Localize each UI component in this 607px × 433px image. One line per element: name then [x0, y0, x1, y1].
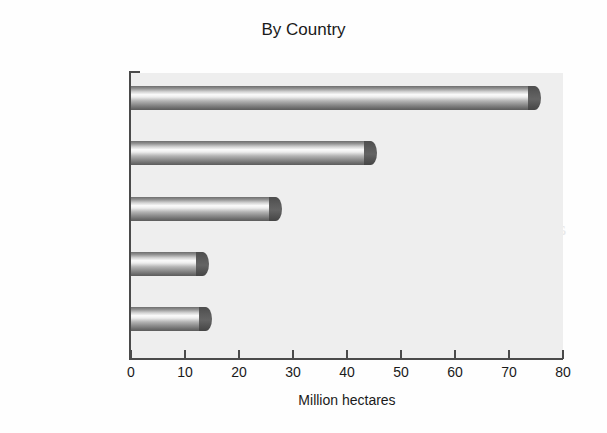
x-axis-tick	[346, 350, 348, 359]
x-axis-tick-label: 0	[109, 364, 153, 380]
x-axis-tick	[130, 350, 132, 359]
x-axis-tick	[400, 350, 402, 359]
x-axis-tick-label: 50	[379, 364, 423, 380]
x-axis-title: Million hectares	[131, 392, 563, 408]
bar-end-cap	[364, 141, 377, 165]
chart-page: asic, naturally applications, w o streng…	[0, 0, 607, 433]
bar	[131, 252, 202, 276]
x-axis-tick-label: 80	[541, 364, 585, 380]
bar	[131, 141, 370, 165]
x-axis-tick	[238, 350, 240, 359]
x-axis-tick-label: 70	[487, 364, 531, 380]
x-axis-tick-label: 40	[325, 364, 369, 380]
x-axis-tick	[292, 350, 294, 359]
bar	[131, 197, 275, 221]
bar-end-cap	[269, 197, 282, 221]
bar	[131, 86, 534, 110]
y-axis-top-cap	[131, 71, 140, 73]
x-axis-tick	[508, 350, 510, 359]
bar	[131, 307, 205, 331]
x-axis-tick	[562, 350, 564, 359]
x-axis-tick-label: 20	[217, 364, 261, 380]
x-axis-tick	[454, 350, 456, 359]
x-axis-tick	[184, 350, 186, 359]
x-axis-tick-label: 60	[433, 364, 477, 380]
x-axis-tick-label: 30	[271, 364, 315, 380]
chart-title: By Country	[0, 20, 607, 40]
x-axis-tick-label: 10	[163, 364, 207, 380]
